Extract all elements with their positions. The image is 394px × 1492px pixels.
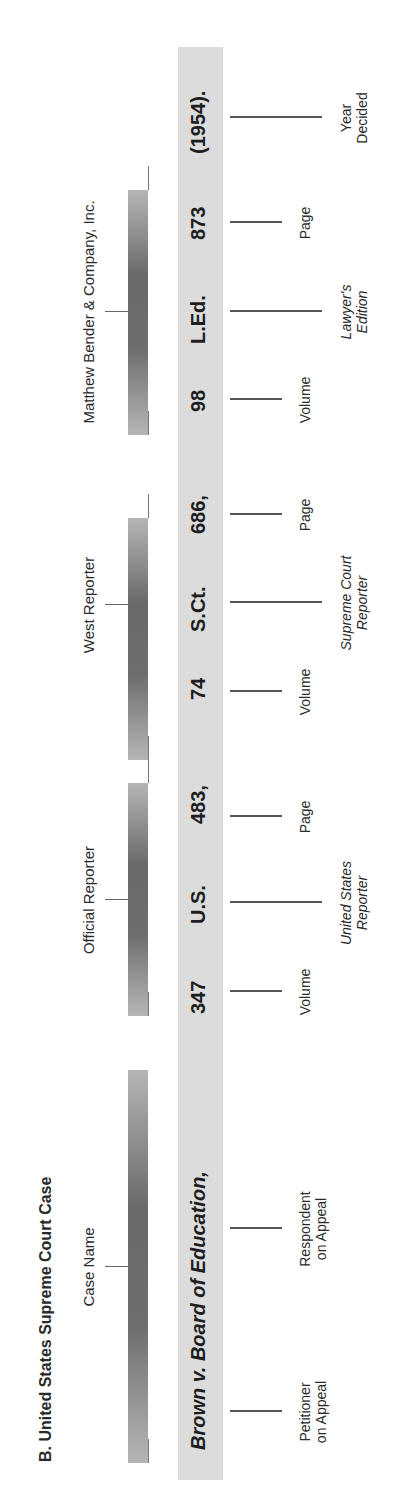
led-reporter-label: Lawyer's Edition: [338, 285, 370, 340]
petitioner-tick: [230, 1411, 282, 1413]
west-bracket-left: [148, 736, 149, 760]
bender-label: Matthew Bender & Company, Inc.: [80, 200, 97, 423]
led-reporter: L.Ed.: [187, 295, 210, 344]
petitioner-line2: on Appeal: [313, 1381, 329, 1443]
us-volume: 347: [187, 981, 210, 1014]
case-name-mid-tick: [105, 1266, 128, 1267]
official-reporter-label: Official Reporter: [80, 846, 97, 954]
official-bracket-right: [148, 759, 149, 783]
bender-bar: [128, 190, 148, 435]
west-mid-tick: [105, 604, 128, 605]
case-name-label: Case Name: [80, 1227, 97, 1306]
official-reporter-bar: [128, 783, 148, 1016]
us-page: 483,: [187, 785, 210, 824]
case-name-bar: [128, 1070, 148, 1463]
case-name-bracket-left: [148, 1439, 149, 1463]
official-mid-tick: [105, 899, 128, 900]
us-reporter-line1: United States: [338, 861, 354, 945]
bender-bracket-right: [148, 166, 149, 190]
sct-reporter-label: Supreme Court Reporter: [338, 556, 370, 651]
led-page: 873: [187, 207, 210, 240]
west-reporter-label: West Reporter: [80, 557, 97, 653]
west-reporter-bar: [128, 518, 148, 760]
led-volume-tick: [230, 399, 282, 401]
bender-bracket-left: [148, 411, 149, 435]
respondent-line2: on Appeal: [313, 1191, 329, 1267]
led-volume-label: Volume: [297, 377, 313, 424]
us-volume-label: Volume: [297, 969, 313, 1016]
petitioner-label: Petitioner on Appeal: [297, 1381, 329, 1443]
sct-volume-tick: [230, 691, 282, 693]
west-bracket-right: [148, 494, 149, 518]
sct-page: 686,: [187, 495, 210, 534]
sct-reporter-line1: Supreme Court: [338, 556, 354, 651]
sct-volume: 74: [187, 678, 210, 700]
us-reporter-tick: [230, 902, 322, 904]
respondent-line1: Respondent: [297, 1191, 313, 1267]
led-reporter-tick: [230, 311, 322, 313]
citation-diagram: B. United States Supreme Court Case Case…: [0, 0, 394, 1492]
sct-volume-label: Volume: [297, 669, 313, 716]
year: (1954).: [187, 91, 210, 154]
case-name-text: Brown v. Board of Education,: [187, 1171, 210, 1450]
section-title: B. United States Supreme Court Case: [37, 1177, 55, 1462]
us-reporter-line2: Reporter: [354, 861, 370, 945]
us-page-label: Page: [297, 801, 313, 834]
led-volume: 98: [187, 390, 210, 412]
year-tick: [230, 117, 322, 119]
respondent-label: Respondent on Appeal: [297, 1191, 329, 1267]
sct-reporter: S.Ct.: [187, 586, 210, 632]
year-line1: Year: [338, 92, 354, 143]
led-page-tick: [230, 222, 282, 224]
sct-reporter-line2: Reporter: [354, 556, 370, 651]
sct-reporter-tick: [230, 602, 322, 604]
official-bracket-left: [148, 992, 149, 1016]
us-reporter-label: United States Reporter: [338, 861, 370, 945]
bender-mid-tick: [105, 311, 128, 312]
petitioner-line1: Petitioner: [297, 1381, 313, 1443]
sct-page-label: Page: [297, 499, 313, 532]
led-reporter-line1: Lawyer's: [338, 285, 354, 340]
year-line2: Decided: [354, 92, 370, 143]
led-reporter-line2: Edition: [354, 285, 370, 340]
led-page-label: Page: [297, 207, 313, 240]
us-page-tick: [230, 816, 282, 818]
us-volume-tick: [230, 991, 282, 993]
respondent-tick: [230, 1228, 282, 1230]
sct-page-tick: [230, 514, 282, 516]
year-label: Year Decided: [338, 92, 370, 143]
us-reporter: U.S.: [187, 885, 210, 924]
